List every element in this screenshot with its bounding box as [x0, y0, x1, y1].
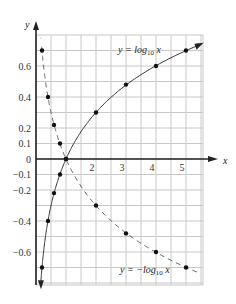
data-point: [40, 265, 44, 269]
y-tick-label: −0.2: [13, 185, 31, 196]
x-tick-label: 3: [120, 162, 125, 173]
data-point: [52, 123, 56, 127]
x-tick-label: 5: [180, 162, 185, 173]
neg-log-curve: [41, 38, 200, 273]
y-axis-label: y: [24, 19, 30, 30]
x-axis-label: x: [222, 155, 228, 166]
y-tick-label: 0.6: [19, 61, 32, 72]
series-labels: y = log10 xy = −log10 x: [117, 44, 170, 277]
data-point: [58, 141, 62, 145]
y-tick-label: 0.2: [19, 123, 32, 134]
data-point: [124, 82, 128, 86]
data-point: [94, 110, 98, 114]
data-point: [184, 265, 188, 269]
log-chart: xy 23450.60.40.20.10−0.1−0.2−0.4−0.6 y =…: [0, 0, 236, 304]
y-tick-label: 0.1: [19, 138, 32, 149]
y-tick-label: 0.4: [19, 92, 32, 103]
data-point: [64, 157, 68, 161]
data-point: [58, 172, 62, 176]
y-tick-label: −0.1: [13, 169, 31, 180]
data-point: [154, 64, 158, 68]
y-tick-label: −0.6: [13, 247, 31, 258]
data-point: [46, 95, 50, 99]
y-tick-label: 0: [26, 154, 31, 165]
x-tick-label: 4: [150, 162, 155, 173]
data-point: [124, 231, 128, 235]
log-curve-label: y = log10 x: [117, 44, 161, 57]
neg-log-curve-label: y = −log10 x: [119, 264, 170, 277]
data-point: [184, 48, 188, 52]
grid: [36, 35, 203, 285]
data-point: [46, 219, 50, 223]
data-point: [94, 203, 98, 207]
y-tick-label: −0.4: [13, 216, 31, 227]
arrow-icon: [195, 43, 204, 50]
x-tick-label: 2: [90, 162, 95, 173]
data-point: [154, 250, 158, 254]
data-point: [40, 48, 44, 52]
data-point: [52, 191, 56, 195]
